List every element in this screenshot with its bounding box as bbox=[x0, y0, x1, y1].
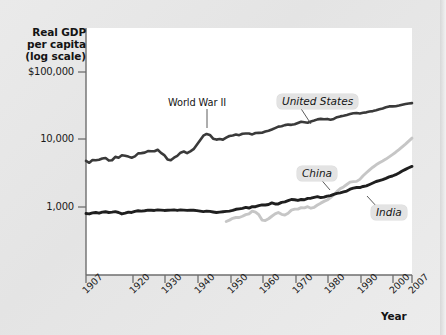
y-axis-title-line-3: (log scale) bbox=[20, 50, 86, 62]
y-axis-ticks bbox=[78, 72, 86, 207]
y-tick-label-10000: 10,000 bbox=[12, 133, 74, 144]
x-axis-title: Year bbox=[381, 310, 407, 322]
chart-figure: Real GDP per capita (log scale) Year $10… bbox=[0, 0, 446, 335]
series-label-united-states: United States bbox=[277, 94, 358, 109]
series-label-india: India bbox=[371, 205, 407, 220]
y-axis-title-line-2: per capita bbox=[20, 38, 86, 50]
y-tick-label-100000: $100,000 bbox=[12, 66, 74, 77]
plot-area-background bbox=[86, 28, 412, 275]
series-label-china: China bbox=[297, 166, 337, 181]
y-axis-title-line-1: Real GDP bbox=[20, 26, 86, 38]
y-tick-label-1000: 1,000 bbox=[12, 201, 74, 212]
y-axis-title: Real GDP per capita (log scale) bbox=[20, 26, 86, 63]
annotation-world-war-ii: World War II bbox=[168, 97, 226, 108]
